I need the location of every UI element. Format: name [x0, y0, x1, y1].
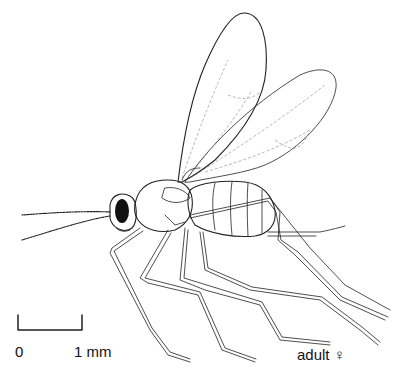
fore-wing	[178, 13, 266, 182]
scale-bar-start-label: 0	[15, 344, 23, 359]
antennae	[22, 212, 110, 240]
scale-bar-end-label: 1 mm	[74, 344, 112, 359]
fore-leg	[110, 228, 190, 362]
mid-leg	[140, 230, 256, 362]
hind-leg-2	[190, 198, 390, 320]
insect-illustration	[0, 0, 403, 376]
figure-caption: adult ♀	[297, 347, 345, 362]
compound-eye	[115, 199, 129, 223]
scale-bar	[18, 315, 82, 330]
mid-leg-2	[180, 228, 330, 345]
thorax	[135, 180, 193, 232]
hind-leg	[200, 232, 380, 345]
head	[110, 194, 136, 231]
